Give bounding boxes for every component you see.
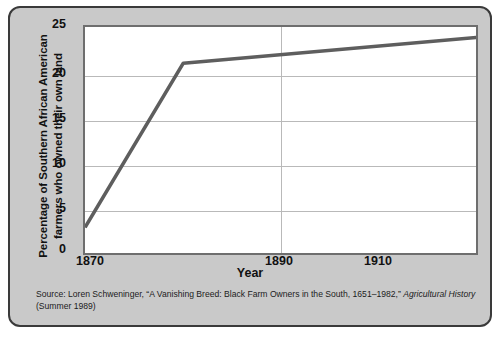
plot-area	[83, 25, 478, 255]
source-text-part-1: Source: Loren Schweninger, “A Vanishing …	[36, 289, 403, 299]
y-tick-5: 5	[26, 201, 66, 215]
y-tick-15: 15	[26, 111, 66, 125]
source-text-part-2: (Summer 1989)	[36, 301, 96, 311]
data-line-series	[85, 27, 476, 253]
source-note: Source: Loren Schweninger, “A Vanishing …	[36, 289, 476, 312]
y-tick-25: 25	[26, 17, 66, 31]
y-tick-10: 10	[26, 156, 66, 170]
x-axis-title: Year	[10, 266, 490, 280]
source-journal-name: Agricultural History	[403, 289, 475, 299]
y-tick-20: 20	[26, 66, 66, 80]
figure-card: Percentage of Southern African American …	[8, 6, 492, 327]
y-axis-title: Percentage of Southern African American …	[31, 21, 71, 271]
